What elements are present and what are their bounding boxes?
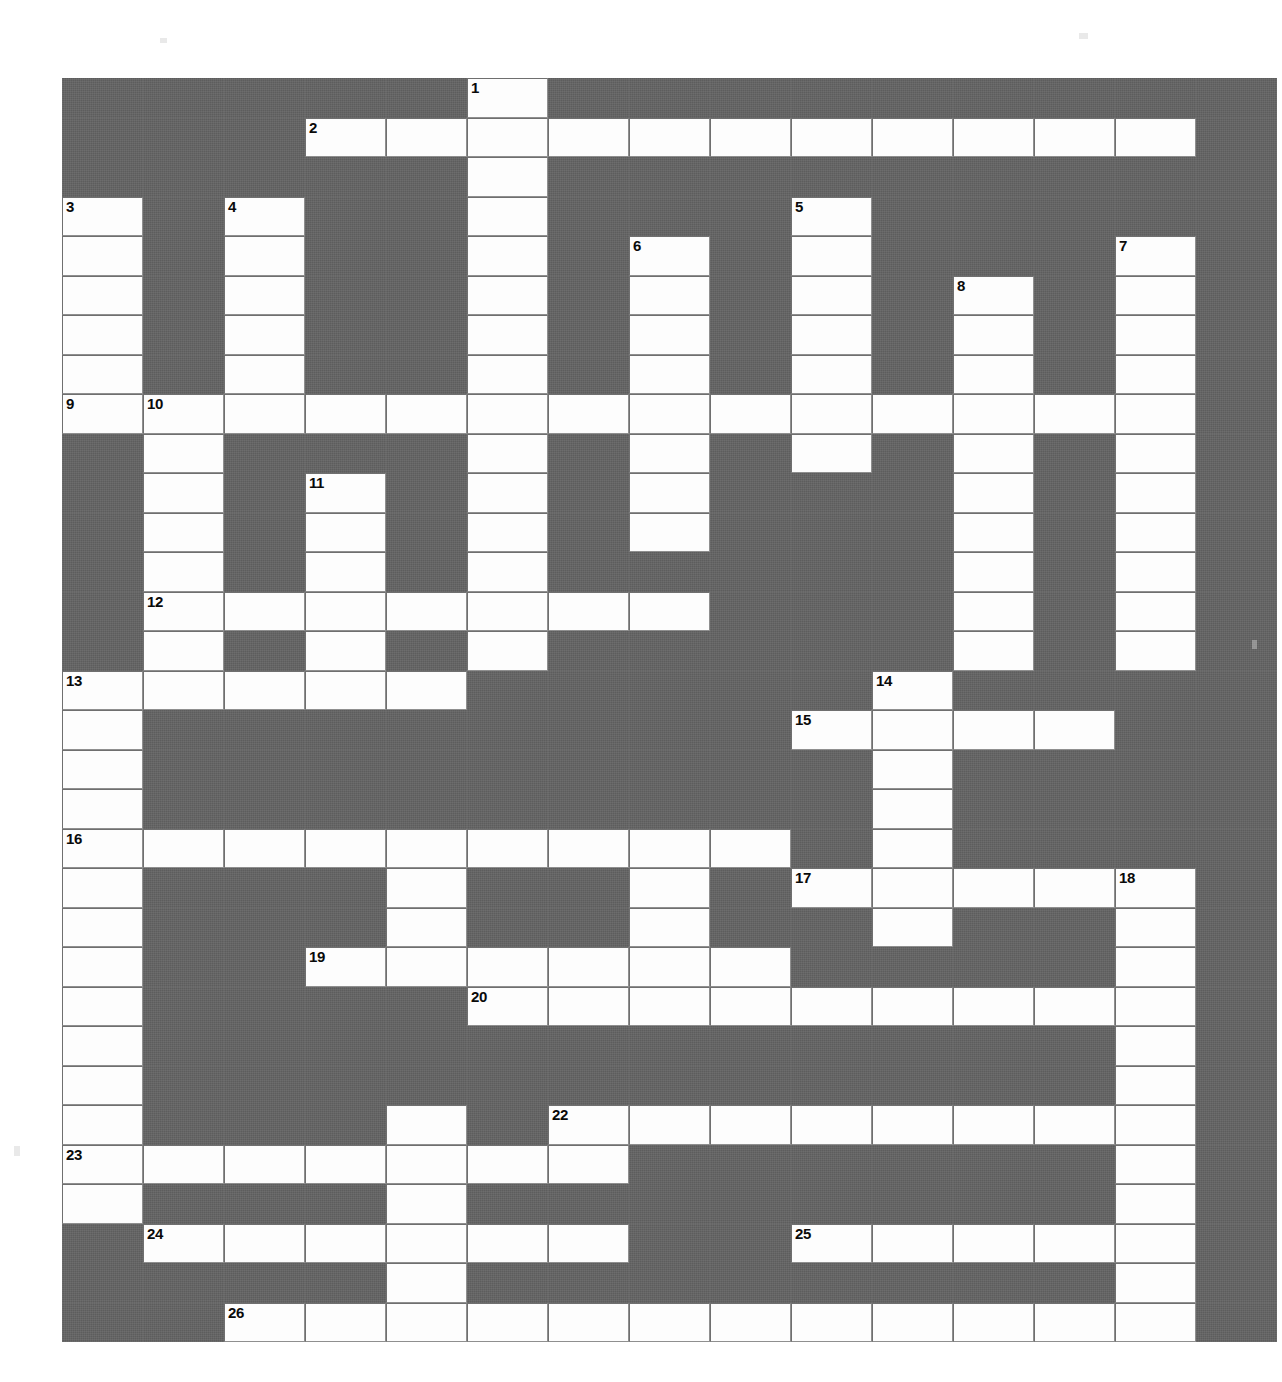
crossword-cell-open[interactable] [791,118,872,158]
crossword-cell-open[interactable] [629,1303,710,1343]
crossword-cell-open[interactable] [629,473,710,513]
crossword-cell-open[interactable] [305,394,386,434]
crossword-cell-open[interactable] [305,552,386,592]
crossword-cell-open[interactable]: 10 [143,394,224,434]
crossword-cell-open[interactable] [305,513,386,553]
crossword-cell-open[interactable] [1115,473,1196,513]
crossword-cell-open[interactable] [791,1303,872,1343]
crossword-cell-open[interactable]: 15 [791,710,872,750]
crossword-cell-open[interactable] [953,473,1034,513]
crossword-cell-open[interactable] [548,1303,629,1343]
crossword-cell-open[interactable] [629,513,710,553]
crossword-cell-open[interactable] [1115,1184,1196,1224]
crossword-cell-open[interactable] [143,434,224,474]
crossword-cell-open[interactable] [1115,592,1196,632]
crossword-cell-open[interactable] [1115,1224,1196,1264]
crossword-cell-open[interactable] [143,513,224,553]
crossword-cell-open[interactable] [224,1224,305,1264]
crossword-cell-open[interactable] [710,829,791,869]
crossword-cell-open[interactable]: 4 [224,197,305,237]
crossword-cell-open[interactable] [62,1066,143,1106]
crossword-cell-open[interactable]: 17 [791,868,872,908]
crossword-cell-open[interactable]: 12 [143,592,224,632]
crossword-cell-open[interactable]: 19 [305,947,386,987]
crossword-cell-open[interactable] [629,276,710,316]
crossword-cell-open[interactable] [1034,118,1115,158]
crossword-cell-open[interactable] [386,1303,467,1343]
crossword-cell-open[interactable] [224,236,305,276]
crossword-cell-open[interactable] [62,987,143,1027]
crossword-cell-open[interactable] [467,552,548,592]
crossword-cell-open[interactable] [1115,118,1196,158]
crossword-cell-open[interactable]: 16 [62,829,143,869]
crossword-cell-open[interactable] [224,592,305,632]
crossword-cell-open[interactable] [953,592,1034,632]
crossword-cell-open[interactable] [1115,355,1196,395]
crossword-cell-open[interactable] [386,947,467,987]
crossword-cell-open[interactable] [629,592,710,632]
crossword-cell-open[interactable] [1115,1303,1196,1343]
crossword-cell-open[interactable] [1034,1105,1115,1145]
crossword-cell-open[interactable] [710,1303,791,1343]
crossword-cell-open[interactable] [629,1105,710,1145]
crossword-cell-open[interactable] [143,631,224,671]
crossword-cell-open[interactable]: 7 [1115,236,1196,276]
crossword-cell-open[interactable] [1115,315,1196,355]
crossword-cell-open[interactable] [791,276,872,316]
crossword-cell-open[interactable] [710,394,791,434]
crossword-cell-open[interactable] [1115,1105,1196,1145]
crossword-cell-open[interactable] [1115,987,1196,1027]
crossword-cell-open[interactable] [305,631,386,671]
crossword-cell-open[interactable] [224,671,305,711]
crossword-cell-open[interactable] [467,1303,548,1343]
crossword-cell-open[interactable] [548,1224,629,1264]
crossword-cell-open[interactable] [953,1105,1034,1145]
crossword-cell-open[interactable] [548,947,629,987]
crossword-cell-open[interactable] [791,1105,872,1145]
crossword-cell-open[interactable] [467,513,548,553]
crossword-cell-open[interactable] [629,908,710,948]
crossword-cell-open[interactable]: 26 [224,1303,305,1343]
crossword-cell-open[interactable] [953,1303,1034,1343]
crossword-cell-open[interactable] [872,710,953,750]
crossword-cell-open[interactable] [710,118,791,158]
crossword-cell-open[interactable] [872,394,953,434]
crossword-cell-open[interactable] [953,631,1034,671]
crossword-cell-open[interactable] [548,1145,629,1185]
crossword-cell-open[interactable] [386,592,467,632]
crossword-cell-open[interactable]: 20 [467,987,548,1027]
crossword-cell-open[interactable]: 14 [872,671,953,711]
crossword-cell-open[interactable] [548,394,629,434]
crossword-cell-open[interactable] [386,868,467,908]
crossword-cell-open[interactable] [629,987,710,1027]
crossword-cell-open[interactable] [467,355,548,395]
crossword-cell-open[interactable]: 13 [62,671,143,711]
crossword-cell-open[interactable] [62,789,143,829]
crossword-cell-open[interactable] [1115,1026,1196,1066]
crossword-cell-open[interactable] [872,868,953,908]
crossword-cell-open[interactable] [953,355,1034,395]
crossword-cell-open[interactable] [62,355,143,395]
crossword-cell-open[interactable] [143,473,224,513]
crossword-cell-open[interactable] [386,1263,467,1303]
crossword-cell-open[interactable] [305,1145,386,1185]
crossword-cell-open[interactable] [224,829,305,869]
crossword-cell-open[interactable] [1034,394,1115,434]
crossword-cell-open[interactable] [953,434,1034,474]
crossword-cell-open[interactable] [467,276,548,316]
crossword-cell-open[interactable] [872,908,953,948]
crossword-cell-open[interactable] [791,355,872,395]
crossword-cell-open[interactable] [143,1145,224,1185]
crossword-cell-open[interactable]: 25 [791,1224,872,1264]
crossword-cell-open[interactable] [62,315,143,355]
crossword-cell-open[interactable] [467,434,548,474]
crossword-cell-open[interactable] [1034,1303,1115,1343]
crossword-cell-open[interactable] [467,829,548,869]
crossword-cell-open[interactable]: 9 [62,394,143,434]
crossword-cell-open[interactable] [467,118,548,158]
crossword-puzzle[interactable]: 1234567891011121314151617181920222324252… [62,78,1277,1342]
crossword-cell-open[interactable] [710,987,791,1027]
crossword-cell-open[interactable] [953,513,1034,553]
crossword-cell-open[interactable]: 23 [62,1145,143,1185]
crossword-cell-open[interactable] [62,868,143,908]
